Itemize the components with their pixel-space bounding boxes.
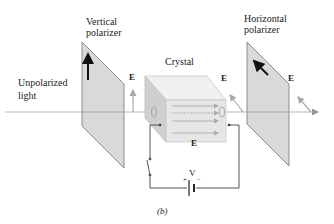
output-e-field-arrow-icon (298, 97, 311, 112)
voltage-label: V (189, 168, 196, 178)
rotated-e-field-arrow-icon (230, 95, 243, 112)
figure-caption: (b) (157, 206, 168, 216)
vertical-polarizer-label: Vertical (86, 16, 117, 27)
vertical-polarizer-label: polarizer (86, 27, 122, 38)
switch-icon (147, 160, 150, 175)
crystal (145, 76, 230, 142)
horizontal-polarizer (247, 42, 289, 166)
unpolarized-light-label: light (18, 90, 37, 101)
crystal-label: Crystal (165, 56, 194, 67)
horizontal-polarizer-label: Horizontal (244, 13, 287, 24)
crystal-e-field-label: E (191, 138, 197, 148)
horizontal-polarizer-label: polarizer (244, 24, 280, 35)
e-field-label: E (288, 73, 294, 83)
vertical-polarizer (82, 42, 124, 168)
electro-optic-modulator-diagram: Vertical polarizer Horizontal polarizer … (0, 0, 334, 224)
e-field-label: E (129, 72, 135, 82)
e-field-label: E (221, 73, 227, 83)
unpolarized-light-label: Unpolarized (18, 77, 67, 88)
minus-sign: − (197, 176, 201, 184)
plus-sign: + (183, 176, 187, 184)
